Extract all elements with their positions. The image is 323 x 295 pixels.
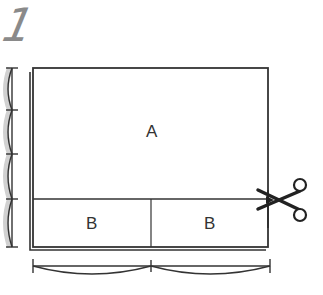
- horizontal-measure: [33, 259, 270, 274]
- region-label-a: A: [146, 123, 157, 140]
- paper-sheet: [30, 68, 268, 250]
- paper-cutting-diagram: [0, 0, 323, 295]
- diagram-canvas: 1: [0, 0, 323, 295]
- region-label-b-right: B: [204, 215, 215, 232]
- scissors-icon: [258, 179, 306, 228]
- region-label-b-left: B: [86, 215, 97, 232]
